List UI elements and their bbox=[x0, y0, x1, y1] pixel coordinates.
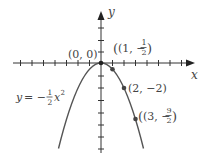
label-point-3: ( (3, − 9 2 ) bbox=[138, 106, 177, 125]
function-label-exp: 2 bbox=[61, 89, 65, 97]
label-paren-close: ) bbox=[147, 41, 152, 56]
point-1 bbox=[110, 67, 115, 72]
point-origin bbox=[99, 61, 104, 66]
label-origin: (0, 0) bbox=[68, 48, 98, 61]
label-point-1-num: 1 bbox=[142, 38, 147, 47]
label-point-1: ( (1, − 1 2 ) bbox=[113, 38, 152, 57]
label-point-3-den: 2 bbox=[167, 116, 172, 125]
function-label-lhs: y bbox=[15, 91, 23, 104]
label-point-1-den: 2 bbox=[142, 48, 147, 57]
function-label-eq: = − bbox=[24, 91, 46, 104]
label-point-3-num: 9 bbox=[167, 106, 172, 115]
point-2 bbox=[122, 86, 127, 91]
x-axis-label: x bbox=[191, 68, 198, 82]
y-axis-label: y bbox=[107, 5, 115, 19]
label-point-2: (2, −2) bbox=[128, 82, 167, 95]
function-label-num: 1 bbox=[48, 88, 53, 97]
parabola-graph: y x (0, 0) ( (1, − 1 2 ) (2, −2) ( (3, −… bbox=[0, 0, 209, 164]
function-label: y = − 1 2 x 2 bbox=[15, 88, 65, 107]
label-paren-close: ) bbox=[172, 109, 177, 124]
y-axis-arrow-icon bbox=[98, 11, 105, 20]
x-axis-arrow-icon bbox=[186, 60, 195, 67]
function-label-den: 2 bbox=[48, 98, 53, 107]
